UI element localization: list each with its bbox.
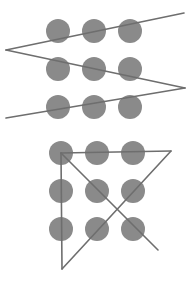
nine-dots-diagram	[0, 0, 195, 282]
solution-line	[61, 153, 62, 269]
solution-line	[6, 13, 184, 50]
solution-line	[62, 151, 171, 269]
dot	[121, 141, 145, 165]
solution-line	[61, 153, 158, 250]
dot	[82, 95, 106, 119]
solution-line	[61, 151, 171, 153]
zigzag-solution-panel	[6, 13, 185, 119]
diagram-svg	[0, 0, 195, 282]
dot	[121, 217, 145, 241]
dot	[46, 95, 70, 119]
dot	[85, 217, 109, 241]
solution-line	[6, 50, 185, 88]
dot	[85, 179, 109, 203]
triangle-solution-panel	[49, 141, 171, 269]
